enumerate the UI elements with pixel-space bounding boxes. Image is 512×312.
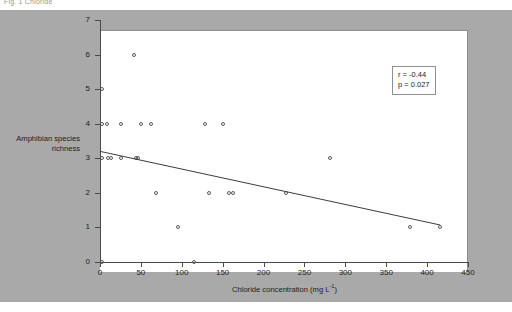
x-axis-tick-label: 250	[289, 268, 319, 277]
scatter-point	[154, 191, 158, 195]
scatter-point	[207, 191, 211, 195]
x-axis-tick	[182, 263, 183, 267]
x-axis-tick	[468, 263, 469, 267]
x-axis-line	[100, 262, 469, 263]
correlation-value: r = -0.44	[398, 70, 430, 80]
scatter-point	[221, 122, 225, 126]
scatter-point	[100, 260, 104, 264]
y-axis-tick-label: 0	[74, 257, 90, 266]
y-axis-title-line2: richness	[52, 144, 80, 153]
figure-caption: Fig. 1 Chloride	[4, 0, 53, 5]
y-axis-tick-label: 7	[74, 15, 90, 24]
x-axis-title-tail: )	[334, 285, 337, 294]
y-axis-tick	[95, 227, 100, 228]
x-axis-tick-label: 0	[85, 268, 115, 277]
x-axis-tick-label: 200	[249, 268, 279, 277]
scatter-point	[119, 122, 123, 126]
y-axis-tick	[95, 193, 100, 194]
x-axis-tick	[427, 263, 428, 267]
scatter-point	[132, 53, 136, 57]
x-axis-tick	[304, 263, 305, 267]
x-axis-title: Chloride concentration (mg L-1)	[100, 283, 469, 294]
y-axis-tick-label: 3	[74, 153, 90, 162]
statistics-annotation-box: r = -0.44 p = 0.027	[392, 66, 436, 95]
y-axis-tick	[95, 55, 100, 56]
y-axis-title-line1: Amphibian species	[16, 134, 80, 143]
x-axis-tick-label: 150	[208, 268, 238, 277]
y-axis-line	[100, 20, 101, 263]
scatter-point	[149, 122, 153, 126]
scatter-point	[100, 156, 104, 160]
x-axis-tick	[264, 263, 265, 267]
scatter-point	[105, 122, 109, 126]
scatter-point	[203, 122, 207, 126]
x-axis-tick-label: 450	[453, 268, 483, 277]
pvalue-value: p = 0.027	[398, 80, 430, 90]
y-axis-tick-label: 4	[74, 119, 90, 128]
x-axis-tick-label: 350	[371, 268, 401, 277]
x-axis-title-main: Chloride concentration (mg L	[232, 285, 330, 294]
y-axis-tick-label: 2	[74, 188, 90, 197]
scatter-point	[100, 122, 104, 126]
x-axis-tick-label: 300	[330, 268, 360, 277]
x-axis-tick-label: 50	[126, 268, 156, 277]
x-axis-tick	[223, 263, 224, 267]
x-axis-tick	[141, 263, 142, 267]
y-axis-tick-label: 5	[74, 84, 90, 93]
x-axis-tick-label: 100	[167, 268, 197, 277]
figure-container: Fig. 1 Chloride 012345670501001502002503…	[0, 0, 512, 312]
scatter-point	[192, 260, 196, 264]
x-axis-tick	[386, 263, 387, 267]
x-axis-tick	[345, 263, 346, 267]
y-axis-tick-label: 1	[74, 222, 90, 231]
y-axis-title: Amphibian species richness	[10, 134, 80, 153]
scatter-point	[139, 122, 143, 126]
x-axis-tick-label: 400	[412, 268, 442, 277]
y-axis-tick-label: 6	[74, 50, 90, 59]
scatter-point	[100, 87, 104, 91]
y-axis-tick	[95, 20, 100, 21]
